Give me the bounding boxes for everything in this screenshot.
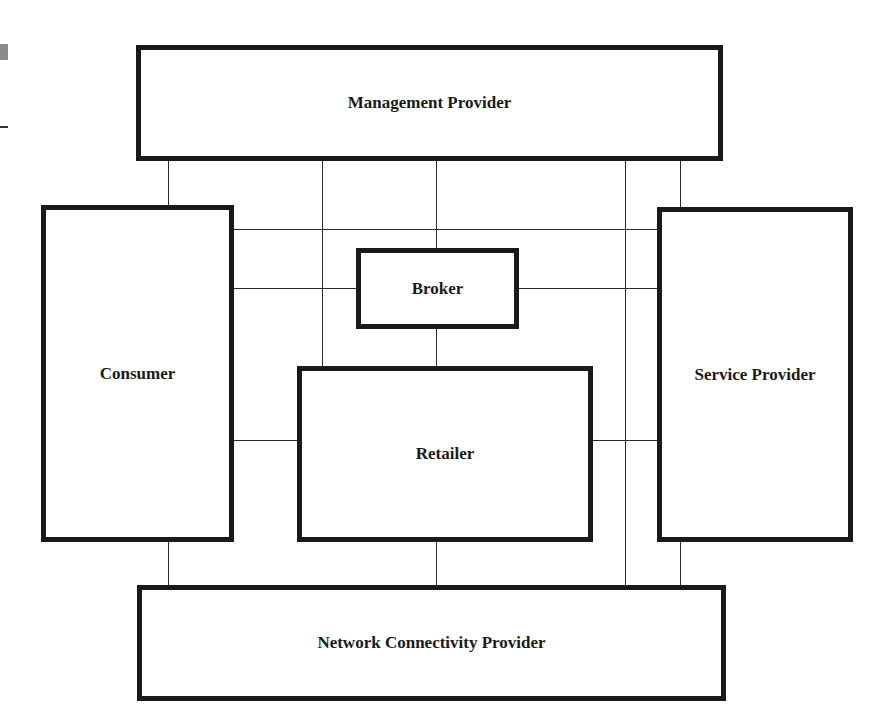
box-management-provider: Management Provider [136,45,723,161]
diagram-canvas: Management Provider Consumer Broker Reta… [0,0,895,727]
box-consumer: Consumer [41,205,234,542]
connector-service-network [680,540,681,586]
box-broker: Broker [356,248,519,329]
connector-mgmt-network [625,160,626,586]
connector-mgmt-consumer [168,160,169,206]
label-retailer: Retailer [416,444,475,464]
label-broker: Broker [412,279,464,299]
connector-consumer-service-top [233,229,658,230]
connector-mgmt-retailer-left [322,160,323,367]
box-network-connectivity-provider: Network Connectivity Provider [137,585,726,701]
label-service-provider: Service Provider [694,365,815,385]
scan-artifact-square [0,44,8,60]
connector-consumer-network [168,540,169,586]
label-management-provider: Management Provider [348,93,512,113]
connector-mgmt-service [680,160,681,208]
label-network-connectivity-provider: Network Connectivity Provider [317,633,545,653]
scan-artifact-line [0,126,8,128]
box-retailer: Retailer [297,366,593,542]
box-service-provider: Service Provider [657,207,853,542]
label-consumer: Consumer [100,364,176,384]
